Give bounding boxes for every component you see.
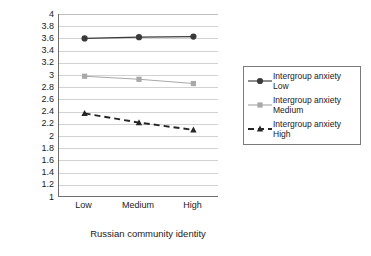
data-point-marker [82, 74, 87, 79]
y-axis-tick-label: 2.8 [16, 83, 54, 92]
y-axis-tick-label: 1.2 [16, 180, 54, 189]
data-point-marker [191, 81, 196, 86]
data-point-marker [136, 34, 142, 40]
x-axis-tick-label: Low [75, 200, 92, 211]
x-axis-tick-label: Medium [122, 200, 154, 211]
series-circle [82, 33, 197, 41]
legend-item: Intergroup anxietyLow [247, 72, 356, 91]
data-point-marker [257, 102, 262, 107]
x-axis-tick-labels: LowMediumHigh [58, 200, 218, 214]
y-axis-tick-label: 1 [16, 193, 54, 202]
data-point-marker [257, 78, 263, 84]
legend-marker-icon [247, 97, 273, 109]
y-axis-tick-label: 3.2 [16, 58, 54, 67]
series-square [82, 74, 196, 87]
chart-legend: Intergroup anxietyLowIntergroup anxietyM… [243, 66, 361, 145]
data-point-marker [136, 77, 141, 82]
y-axis-tick-label: 2.4 [16, 107, 54, 116]
y-axis-tick-label: 3.6 [16, 34, 54, 43]
y-axis-tick-label: 4 [16, 10, 54, 19]
y-axis-tick-label: 1.8 [16, 144, 54, 153]
legend-item: Intergroup anxietyMedium [247, 96, 356, 115]
legend-label: Intergroup anxietyMedium [273, 96, 356, 115]
legend-marker-icon [247, 121, 273, 133]
data-point-marker [190, 127, 196, 133]
y-axis-tick-label: 3.4 [16, 46, 54, 55]
legend-label: Intergroup anxietyLow [273, 72, 356, 91]
y-axis-tick-label: 2.6 [16, 95, 54, 104]
legend-marker-icon [247, 73, 273, 85]
series-layer [59, 14, 219, 197]
data-point-marker [190, 33, 196, 39]
y-axis-tick-label: 2 [16, 132, 54, 141]
y-axis-tick-labels: 43.83.63.43.232.82.62.42.221.81.61.41.21 [16, 8, 54, 198]
y-axis-tick-label: 1.4 [16, 168, 54, 177]
data-point-marker [82, 35, 88, 41]
line-chart-figure: 43.83.63.43.232.82.62.42.221.81.61.41.21… [0, 0, 371, 256]
plot-area [58, 14, 218, 197]
x-axis-title: Russian community identity [58, 228, 238, 239]
legend-label: Intergroup anxietyHigh [273, 120, 356, 139]
y-axis-tick-label: 1.6 [16, 156, 54, 165]
y-axis-tick-label: 3 [16, 71, 54, 80]
y-axis-tick-label: 2.2 [16, 119, 54, 128]
legend-item: Intergroup anxietyHigh [247, 120, 356, 139]
series-triangle [81, 110, 196, 132]
y-axis-tick-label: 3.8 [16, 22, 54, 31]
x-axis-tick-label: High [183, 200, 202, 211]
